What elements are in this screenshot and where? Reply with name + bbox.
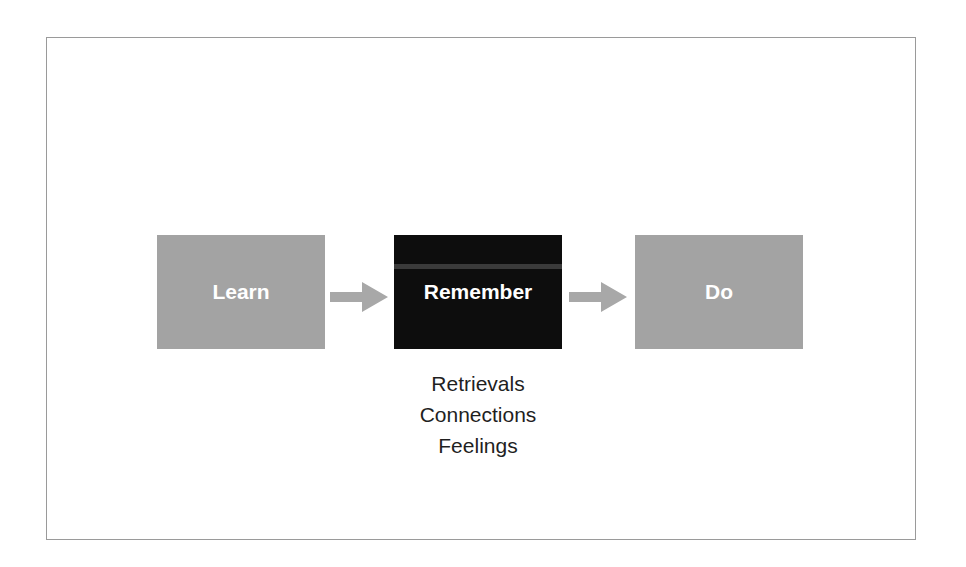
detail-connections: Connections [380,399,576,430]
do-box: Do [635,235,803,349]
detail-feelings: Feelings [380,430,576,461]
learn-label: Learn [212,280,269,304]
arrow-right-icon [330,282,390,312]
remember-label: Remember [424,280,533,304]
detail-retrievals: Retrievals [380,368,576,399]
remember-details: Retrievals Connections Feelings [380,368,576,461]
remember-box: Remember [394,235,562,349]
arrow-right-icon [569,282,629,312]
do-label: Do [705,280,733,304]
learn-box: Learn [157,235,325,349]
